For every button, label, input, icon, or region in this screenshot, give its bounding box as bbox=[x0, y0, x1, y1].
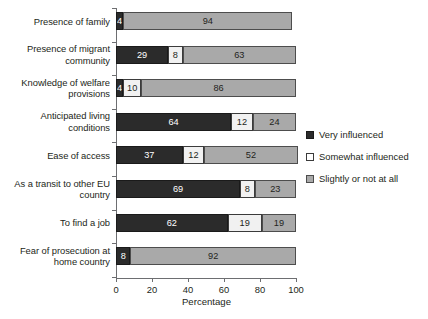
bar-segment-value: 8 bbox=[245, 184, 250, 194]
swatch-very-influenced-icon bbox=[306, 131, 314, 139]
bar-segment-value: 64 bbox=[168, 117, 178, 127]
legend-item[interactable]: Slightly or not at all bbox=[306, 173, 428, 184]
bar-row: 29863 bbox=[116, 46, 296, 64]
bar-segment-somewhat-influenced: 10 bbox=[123, 79, 141, 97]
x-axis-tick-label: 100 bbox=[288, 284, 304, 295]
x-axis-tick bbox=[296, 278, 297, 282]
category-label: Presence of family bbox=[0, 16, 110, 27]
legend-label: Somewhat influenced bbox=[319, 152, 409, 162]
bar-segment-value: 92 bbox=[208, 251, 218, 261]
category-label: Ease of access bbox=[0, 150, 110, 161]
bar-segment-slightly-or-not-at-all: 19 bbox=[262, 214, 296, 232]
x-axis-line: 020406080100 bbox=[116, 278, 297, 279]
x-axis-tick-label: 80 bbox=[255, 284, 265, 295]
bar-segment-value: 24 bbox=[269, 117, 279, 127]
bar-segment-value: 69 bbox=[173, 184, 183, 194]
bar-segment-slightly-or-not-at-all: 94 bbox=[123, 12, 292, 30]
bar-row: 69823 bbox=[116, 180, 296, 198]
bar-segment-slightly-or-not-at-all: 23 bbox=[255, 180, 296, 198]
bar-segment-value: 8 bbox=[121, 251, 126, 261]
bar-segment-value: 19 bbox=[274, 218, 284, 228]
x-axis-tick-label: 60 bbox=[219, 284, 229, 295]
bar-segment-somewhat-influenced: 19 bbox=[228, 214, 262, 232]
bar-segment-value: 37 bbox=[144, 150, 154, 160]
x-axis-tick-label: 40 bbox=[183, 284, 193, 295]
swatch-somewhat-influenced-icon bbox=[306, 153, 314, 161]
bar-row: 494 bbox=[116, 12, 296, 30]
bar-segment-value: 23 bbox=[270, 184, 280, 194]
chart-legend: Very influencedSomewhat influencedSlight… bbox=[306, 129, 428, 195]
x-axis-tick-label: 20 bbox=[147, 284, 157, 295]
bar-segment-somewhat-influenced: 12 bbox=[183, 146, 205, 164]
bar-segment-value: 19 bbox=[240, 218, 250, 228]
plot-area: 494298634108664122437125269823621919892 bbox=[116, 8, 296, 278]
x-axis-tick-label: 0 bbox=[113, 284, 118, 295]
bar-segment-very-influenced: 29 bbox=[116, 46, 168, 64]
bar-segment-value: 4 bbox=[117, 83, 122, 93]
legend-label: Slightly or not at all bbox=[319, 174, 398, 184]
bar-segment-somewhat-influenced: 8 bbox=[240, 180, 254, 198]
x-axis-tick bbox=[188, 278, 189, 282]
legend-item[interactable]: Very influenced bbox=[306, 129, 428, 140]
x-axis-title: Percentage bbox=[116, 296, 297, 307]
x-axis-tick bbox=[152, 278, 153, 282]
bar-segment-slightly-or-not-at-all: 86 bbox=[141, 79, 296, 97]
bar-segment-value: 29 bbox=[137, 50, 147, 60]
bar-row: 641224 bbox=[116, 113, 296, 131]
bar-segment-slightly-or-not-at-all: 52 bbox=[204, 146, 298, 164]
bar-row: 621919 bbox=[116, 214, 296, 232]
swatch-slightly-or-not-at-all-icon bbox=[306, 175, 314, 183]
bar-segment-very-influenced: 4 bbox=[116, 79, 123, 97]
bar-segment-very-influenced: 69 bbox=[116, 180, 240, 198]
bar-row: 41086 bbox=[116, 79, 296, 97]
category-label: Fear of prosecution at home country bbox=[0, 245, 110, 268]
bar-segment-somewhat-influenced: 12 bbox=[231, 113, 253, 131]
bar-segment-somewhat-influenced: 8 bbox=[168, 46, 182, 64]
bar-segment-value: 8 bbox=[173, 50, 178, 60]
bar-row: 892 bbox=[116, 247, 296, 265]
bar-segment-value: 12 bbox=[237, 117, 247, 127]
bar-segment-slightly-or-not-at-all: 63 bbox=[183, 46, 296, 64]
bar-segment-value: 12 bbox=[188, 150, 198, 160]
bar-segment-slightly-or-not-at-all: 92 bbox=[130, 247, 296, 265]
bar-segment-very-influenced: 62 bbox=[116, 214, 228, 232]
legend-item[interactable]: Somewhat influenced bbox=[306, 151, 428, 162]
bar-segment-value: 10 bbox=[127, 83, 137, 93]
bar-segment-very-influenced: 8 bbox=[116, 247, 130, 265]
category-label: To find a job bbox=[0, 217, 110, 228]
bar-segment-value: 63 bbox=[234, 50, 244, 60]
bar-segment-slightly-or-not-at-all: 24 bbox=[253, 113, 296, 131]
stacked-bar-chart: Presence of familyPresence of migrant co… bbox=[0, 0, 428, 319]
bar-segment-value: 62 bbox=[167, 218, 177, 228]
category-axis-labels: Presence of familyPresence of migrant co… bbox=[0, 0, 110, 278]
x-axis-tick bbox=[260, 278, 261, 282]
category-label: As a transit to other EU country bbox=[0, 178, 110, 201]
bar-segment-very-influenced: 4 bbox=[116, 12, 123, 30]
bar-segment-value: 86 bbox=[213, 83, 223, 93]
category-label: Presence of migrant community bbox=[0, 43, 110, 66]
bar-row: 371252 bbox=[116, 146, 296, 164]
bar-segment-value: 94 bbox=[203, 16, 213, 26]
bar-segment-value: 4 bbox=[117, 16, 122, 26]
bar-segment-very-influenced: 37 bbox=[116, 146, 183, 164]
bar-segment-very-influenced: 64 bbox=[116, 113, 231, 131]
bar-segment-value: 52 bbox=[246, 150, 256, 160]
x-axis-tick bbox=[224, 278, 225, 282]
x-axis-tick bbox=[116, 278, 117, 282]
category-label: Knowledge of welfare provisions bbox=[0, 77, 110, 100]
legend-label: Very influenced bbox=[319, 130, 383, 140]
category-label: Anticipated living conditions bbox=[0, 110, 110, 133]
